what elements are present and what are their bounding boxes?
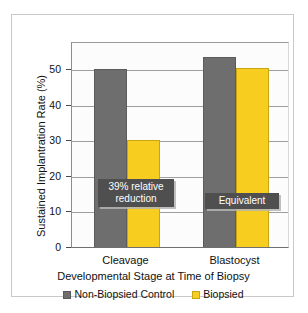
y-tick-label: 50 (41, 64, 61, 75)
annotation-callout-relative-reduction: 39% relativereduction (98, 179, 174, 207)
y-tick-label: 10 (41, 206, 61, 217)
y-tick-label: 20 (41, 171, 61, 182)
y-tick-label: 40 (41, 100, 61, 111)
legend: Non-Biopsied Control Biopsied (12, 289, 295, 300)
x-category-label-cleavage: Cleavage (71, 255, 181, 266)
y-tick-label: 30 (41, 135, 61, 146)
plot-area: 39% relativereductionEquivalent (71, 42, 289, 248)
legend-item-non-biopsied-control: Non-Biopsied Control (63, 289, 174, 300)
figure-frame: Sustained Implantration Rate (%) 0102030… (11, 14, 294, 297)
legend-swatch-icon-control (63, 291, 71, 299)
y-axis-title: Sustained Implantration Rate (%) (36, 66, 47, 246)
annotation-line-2: reduction (102, 193, 170, 205)
bar-cleavage-control (94, 69, 127, 247)
x-axis-title: Developmental Stage at Time of Biopsy (12, 270, 295, 282)
x-category-label-blastocyst: Blastocyst (180, 255, 290, 266)
legend-label-control: Non-Biopsied Control (74, 289, 174, 300)
y-tick-label: 0 (41, 242, 61, 253)
bar-blastocyst-control (203, 57, 236, 247)
legend-label-biopsied: Biopsied (203, 289, 243, 300)
annotation-callout-equivalent: Equivalent (205, 193, 279, 209)
annotation-line-1: Equivalent (209, 195, 275, 207)
legend-item-biopsied: Biopsied (192, 289, 243, 300)
bar-blastocyst-biopsied (236, 68, 269, 247)
annotation-line-1: 39% relative (102, 181, 170, 193)
legend-swatch-icon-biopsied (192, 291, 200, 299)
